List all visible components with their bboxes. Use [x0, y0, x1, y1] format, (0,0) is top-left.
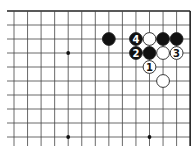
black-stone-icon	[170, 33, 183, 46]
black-stone-icon	[157, 33, 170, 46]
white-stone-icon	[157, 75, 170, 88]
white-stone-icon	[157, 47, 170, 60]
star-point-icon	[148, 135, 152, 139]
star-point-icon	[66, 51, 70, 55]
move-number-label: 2	[132, 48, 139, 59]
black-stone	[157, 33, 170, 46]
white-stone	[157, 47, 170, 60]
black-stone	[143, 47, 156, 60]
black-stone	[170, 33, 183, 46]
stones: 4231	[102, 33, 183, 88]
black-stone	[102, 33, 115, 46]
white-stone-3: 3	[170, 47, 183, 60]
black-stone-icon	[143, 47, 156, 60]
white-stone	[157, 75, 170, 88]
black-stone-4: 4	[130, 33, 143, 46]
black-stone-icon	[102, 33, 115, 46]
go-board: 4231	[0, 0, 196, 155]
white-stone-1: 1	[143, 61, 156, 74]
black-stone-2: 2	[130, 47, 143, 60]
move-number-label: 3	[173, 48, 180, 59]
move-number-label: 4	[132, 34, 139, 45]
white-stone-icon	[143, 33, 156, 46]
white-stone	[143, 33, 156, 46]
move-number-label: 1	[146, 62, 153, 73]
star-point-icon	[66, 135, 70, 139]
